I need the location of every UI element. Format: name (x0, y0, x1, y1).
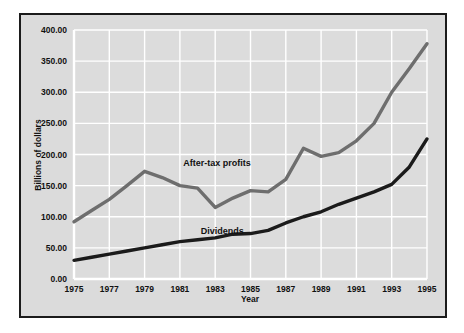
y-axis-title: Billions of dollars (33, 119, 43, 191)
y-tick-label: 300.00 (41, 87, 67, 97)
y-tick-label: 50.00 (46, 243, 68, 253)
x-tick-label: 1995 (418, 284, 437, 294)
x-tick-label: 1977 (100, 284, 119, 294)
y-tick-label: 250.00 (41, 118, 67, 128)
x-tick-label: 1989 (312, 284, 331, 294)
x-tick-label: 1985 (241, 284, 260, 294)
y-tick-label: 0.00 (50, 274, 67, 284)
y-tick-label: 350.00 (41, 56, 67, 66)
x-axis-tick-labels: 1975197719791981198319851987198919911993… (65, 284, 437, 294)
y-axis-tick-labels: 0.0050.00100.00150.00200.00250.00300.003… (41, 25, 67, 284)
x-tick-label: 1981 (170, 284, 189, 294)
chart-figure: 0.0050.00100.00150.00200.00250.00300.003… (0, 0, 464, 333)
x-tick-label: 1993 (382, 284, 401, 294)
y-tick-label: 100.00 (41, 212, 67, 222)
series-label: After-tax profits (183, 158, 251, 168)
x-tick-label: 1983 (206, 284, 225, 294)
x-tick-label: 1987 (276, 284, 295, 294)
x-tick-label: 1991 (347, 284, 366, 294)
x-tick-label: 1975 (65, 284, 84, 294)
y-tick-label: 400.00 (41, 25, 67, 35)
x-axis-title: Year (241, 294, 260, 304)
y-tick-label: 200.00 (41, 150, 67, 160)
line-chart: 0.0050.00100.00150.00200.00250.00300.003… (0, 0, 464, 333)
series-label: Dividends (201, 226, 244, 236)
x-tick-label: 1979 (135, 284, 154, 294)
y-tick-label: 150.00 (41, 181, 67, 191)
